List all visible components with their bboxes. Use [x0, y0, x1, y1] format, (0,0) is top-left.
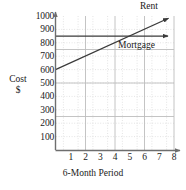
x-tick-8: 8	[166, 152, 182, 163]
x-tick-5: 5	[122, 152, 138, 163]
x-axis-tick-labels: 1 2 3 4 5 6 7 8	[56, 152, 174, 166]
x-tick-1: 1	[63, 152, 79, 163]
line-chart: 1000 900 800 700 600 500 400 300 200 100…	[0, 0, 186, 190]
x-tick-3: 3	[92, 152, 108, 163]
x-tick-2: 2	[78, 152, 94, 163]
x-axis-title: 6-Month Period	[0, 168, 186, 179]
x-tick-6: 6	[137, 152, 153, 163]
x-tick-4: 4	[107, 152, 123, 163]
x-tick-7: 7	[151, 152, 167, 163]
